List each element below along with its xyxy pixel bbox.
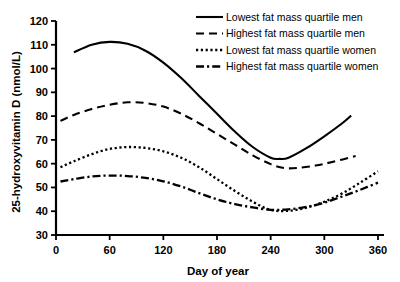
- y-tick-label: 90: [36, 86, 48, 98]
- y-tick-label: 60: [36, 158, 48, 170]
- chart-figure: 25-hydroxyvitamin D (nmol/L) Day of year…: [0, 0, 400, 282]
- legend-label: Highest fat mass quartile men: [226, 27, 365, 39]
- x-tick-label: 360: [369, 244, 387, 256]
- x-tick-labels: 060120180240300360: [53, 244, 387, 256]
- y-tick-label: 80: [36, 110, 48, 122]
- y-tick-label: 40: [36, 205, 48, 217]
- x-tick-label: 0: [53, 244, 59, 256]
- x-axis-title-group: Day of year: [187, 265, 250, 277]
- y-axis-title: 25-hydroxyvitamin D (nmol/L): [10, 51, 22, 213]
- y-tick-label: 30: [36, 229, 48, 241]
- x-axis-title: Day of year: [187, 265, 250, 277]
- legend-label: Lowest fat mass quartile men: [226, 11, 363, 23]
- y-tick-label: 50: [36, 181, 48, 193]
- y-tick-label: 110: [30, 39, 48, 51]
- chart-legend: Lowest fat mass quartile menHighest fat …: [196, 11, 378, 73]
- x-tick-label: 60: [104, 244, 116, 256]
- y-tick-label: 100: [30, 63, 48, 75]
- series-line: [60, 176, 378, 210]
- x-tick-label: 120: [154, 244, 172, 256]
- x-tick-label: 240: [261, 244, 279, 256]
- y-tick-label: 70: [36, 134, 48, 146]
- legend-label: Highest fat mass quartile women: [226, 60, 378, 72]
- x-tick-label: 300: [315, 244, 333, 256]
- y-axis-title-group: 25-hydroxyvitamin D (nmol/L): [10, 51, 22, 213]
- line-chart: 25-hydroxyvitamin D (nmol/L) Day of year…: [0, 0, 400, 282]
- legend-label: Lowest fat mass quartile women: [226, 44, 376, 56]
- x-tick-label: 180: [208, 244, 226, 256]
- series-line: [60, 102, 355, 168]
- y-tick-labels: 30405060708090100110120: [30, 15, 48, 241]
- y-tick-label: 120: [30, 15, 48, 27]
